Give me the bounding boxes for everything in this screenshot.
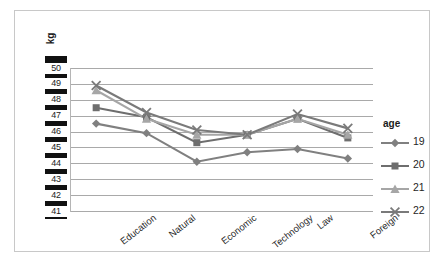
legend-item-20[interactable]: 20: [381, 158, 446, 181]
data-point-diamond[interactable]: [391, 139, 399, 147]
series-line-19[interactable]: [96, 124, 348, 162]
y-axis-tick: 49: [45, 78, 67, 89]
legend-title: age: [383, 118, 446, 129]
legend-item-19[interactable]: 19: [381, 135, 446, 158]
legend-label: 19: [413, 135, 425, 147]
data-point-cross[interactable]: [391, 208, 400, 217]
x-axis-label: Education: [118, 212, 158, 247]
plot-area: [71, 68, 373, 211]
y-axis-title: kg: [45, 33, 56, 45]
legend-marker-diamond-icon: [381, 137, 409, 149]
x-axis-label: Law: [314, 212, 335, 231]
legend-marker-triangle-icon: [381, 183, 409, 195]
series-line-22[interactable]: [96, 85, 348, 134]
legend-rows: 19202122: [381, 135, 446, 227]
data-point-diamond[interactable]: [92, 119, 100, 127]
data-point-square[interactable]: [93, 104, 100, 111]
legend: age 19202122: [381, 118, 446, 227]
data-point-diamond[interactable]: [243, 148, 251, 156]
y-axis-tick: 44: [45, 158, 67, 169]
y-axis-tick: 45: [45, 142, 67, 153]
y-axis-tick-strip[interactable]: 50494847464544434241: [45, 56, 67, 219]
data-point-diamond[interactable]: [142, 129, 150, 137]
x-axis-label: Technology: [270, 212, 315, 250]
y-axis-tick: 48: [45, 94, 67, 105]
chart-frame: kg 50494847464544434241 EducationNatural…: [14, 10, 430, 252]
series-line-21[interactable]: [96, 90, 348, 134]
legend-label: 22: [413, 204, 425, 216]
data-point-square[interactable]: [193, 139, 200, 146]
data-point-diamond[interactable]: [193, 158, 201, 166]
data-point-diamond[interactable]: [293, 145, 301, 153]
legend-marker-square-icon: [381, 160, 409, 172]
legend-item-21[interactable]: 21: [381, 181, 446, 204]
legend-item-22[interactable]: 22: [381, 204, 446, 227]
y-axis-tick: 47: [45, 110, 67, 121]
data-point-triangle[interactable]: [390, 184, 399, 193]
y-axis-tick: 43: [45, 174, 67, 185]
legend-label: 21: [413, 181, 425, 193]
x-axis-label: Economic: [219, 212, 259, 246]
data-point-diamond[interactable]: [344, 154, 352, 162]
y-axis-tick: 50: [45, 63, 67, 74]
y-axis-tick: 46: [45, 126, 67, 137]
series-lines-layer: [71, 68, 373, 211]
legend-label: 20: [413, 158, 425, 170]
data-point-square[interactable]: [392, 163, 399, 170]
x-axis-label: Natural: [166, 212, 197, 240]
y-axis-tick: 42: [45, 190, 67, 201]
series-line-20[interactable]: [96, 108, 348, 143]
x-axis-labels: EducationNaturalEconomicTechnologyLawFor…: [71, 212, 373, 266]
y-axis-tick: 41: [45, 206, 67, 217]
legend-marker-cross-icon: [381, 206, 409, 218]
